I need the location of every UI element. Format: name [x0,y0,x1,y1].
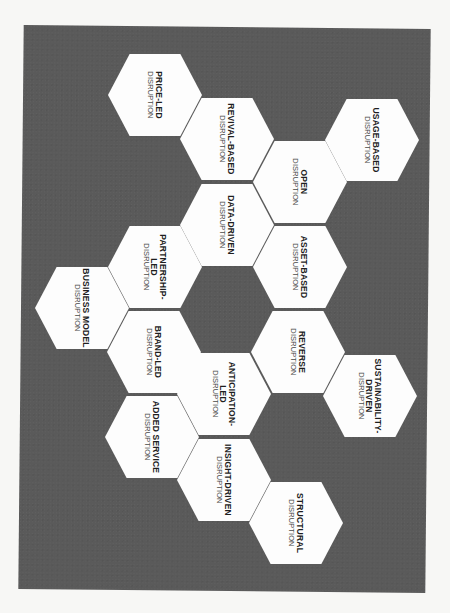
hexagon-label: ADDED SERVICE DISRUPTION [144,396,160,478]
hexagon-title: PARTNERSHIP-LED [150,226,167,308]
hexagon-title: STRUCTURAL [296,482,305,564]
hexagon-label: USAGE-BASED DISRUPTION [364,99,380,181]
hexagon-label: DATA-DRIVEN DISRUPTION [219,184,235,266]
hexagon-label: ANTICIPATION-LED DISRUPTION [212,353,237,435]
hexagon-title: ASSET-BASED [300,226,309,308]
hexagon-label: SUSTAINABILITY-DRIVEN DISRUPTION [358,355,383,437]
hexagon-title: REVERSE [298,311,307,393]
hexagon-title: ADDED SERVICE [152,396,161,478]
hexagon-label: OPEN DISRUPTION [292,141,308,223]
hexagon-label: PARTNERSHIP-LED DISRUPTION [143,226,168,308]
hexagon-subtitle: DISRUPTION [146,311,154,393]
hexagon-label: BRAND-LED DISRUPTION [146,311,162,393]
hexagon-subtitle: DISRUPTION [290,311,298,393]
hexagon-label: STRUCTURAL DISRUPTION [288,482,304,564]
hexagon-subtitle: DISRUPTION [147,54,155,136]
hexagon-label: REVIVAL-BASED DISRUPTION [219,98,235,180]
hexagon-subtitle: DISRUPTION [292,141,300,223]
hexagon-title: REVIVAL-BASED [227,98,236,180]
hexagon-title: SUSTAINABILITY-DRIVEN [365,355,382,437]
hexagon-title: USAGE-BASED [372,99,381,181]
hexagon-title: PRICE-LED [155,54,164,136]
hexagon-title: OPEN [300,141,309,223]
hexagon-label: BUSINESS MODEL DISRUPTION [74,267,90,349]
hexagon-title: BRAND-LED [154,311,163,393]
hexagon-title: ANTICIPATION-LED [219,353,236,435]
hexagon-title: DATA-DRIVEN [227,184,236,266]
hexagon-label: ASSET-BASED DISRUPTION [292,226,308,308]
hexagon-label: INSIGHT-DRIVEN DISRUPTION [216,439,232,521]
hexagon-label: REVERSE DISRUPTION [290,311,306,393]
hexagon-subtitle: DISRUPTION [212,353,220,435]
hexagon-subtitle: DISRUPTION [358,355,366,437]
hexagon-subtitle: DISRUPTION [143,226,151,308]
hexagon-title: BUSINESS MODEL [82,267,91,349]
hexagon-title: INSIGHT-DRIVEN [224,439,233,521]
hexagon-label: PRICE-LED DISRUPTION [147,54,163,136]
